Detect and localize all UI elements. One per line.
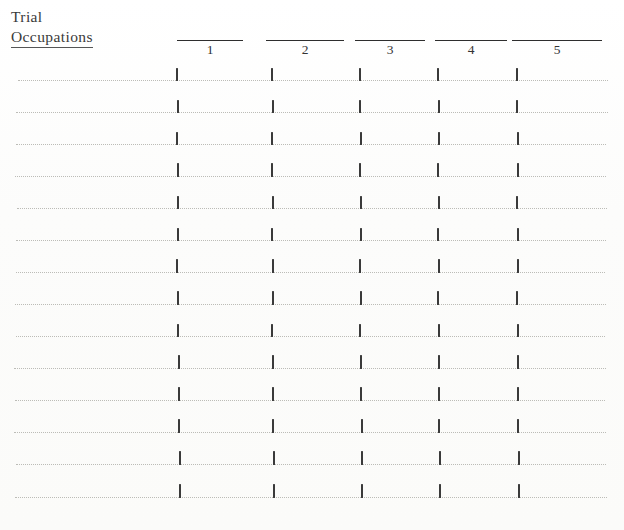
tick-mark-col-1[interactable] [179,484,181,498]
tick-mark-col-3[interactable] [361,451,363,465]
tick-mark-col-3[interactable] [361,419,363,433]
tick-mark-col-4[interactable] [438,196,440,209]
tick-mark-col-3[interactable] [359,324,361,337]
tick-mark-col-3[interactable] [360,132,362,145]
tick-mark-col-3[interactable] [359,163,361,177]
tick-mark-col-2[interactable] [272,259,274,273]
tick-mark-col-3[interactable] [360,291,362,305]
tick-mark-col-2[interactable] [272,100,274,113]
tick-mark-col-4[interactable] [439,484,441,498]
tick-mark-col-5[interactable] [517,355,519,369]
tick-mark-col-4[interactable] [438,100,440,113]
tick-mark-col-5[interactable] [516,196,518,209]
tick-mark-col-4[interactable] [438,419,440,433]
tick-mark-col-1[interactable] [177,291,179,305]
tick-mark-col-5[interactable] [517,163,519,177]
tick-mark-col-5[interactable] [517,324,519,337]
tick-mark-col-4[interactable] [438,132,440,145]
form-grid [0,0,624,530]
row-dotted-rule [17,208,607,209]
tick-mark-col-3[interactable] [360,196,362,209]
tick-mark-col-4[interactable] [438,324,440,337]
tick-mark-col-1[interactable] [176,68,178,81]
tick-mark-col-2[interactable] [271,228,273,241]
tick-mark-col-3[interactable] [361,484,363,498]
tick-mark-col-5[interactable] [516,100,518,113]
tick-mark-col-3[interactable] [360,387,362,401]
tick-mark-col-1[interactable] [178,419,180,433]
row-dotted-rule [18,80,608,81]
tick-mark-col-1[interactable] [178,387,180,401]
tick-mark-col-4[interactable] [437,68,439,81]
tick-mark-col-1[interactable] [176,259,178,273]
tick-mark-col-1[interactable] [177,163,179,177]
tick-mark-col-1[interactable] [177,228,179,241]
tick-mark-col-2[interactable] [273,484,275,498]
tick-mark-col-2[interactable] [273,451,275,465]
tick-mark-col-1[interactable] [178,355,180,369]
tick-mark-col-3[interactable] [359,100,361,113]
tick-mark-col-2[interactable] [272,387,274,401]
tick-mark-col-1[interactable] [179,451,181,465]
tick-mark-col-2[interactable] [271,68,273,81]
tick-mark-col-1[interactable] [177,100,179,113]
tick-mark-col-3[interactable] [360,228,362,241]
tick-mark-col-3[interactable] [360,355,362,369]
tick-mark-col-4[interactable] [437,291,439,305]
tick-mark-col-3[interactable] [359,68,361,81]
tick-mark-col-5[interactable] [516,291,518,305]
tick-mark-col-1[interactable] [177,196,179,209]
tick-mark-col-4[interactable] [437,163,439,177]
tick-mark-col-2[interactable] [272,419,274,433]
tick-mark-col-3[interactable] [359,259,361,273]
tick-mark-col-2[interactable] [271,163,273,177]
tick-mark-col-5[interactable] [517,259,519,273]
tick-mark-col-4[interactable] [438,355,440,369]
tick-mark-col-5[interactable] [518,484,520,498]
tick-mark-col-4[interactable] [438,387,440,401]
tick-mark-col-5[interactable] [518,451,520,465]
tick-mark-col-5[interactable] [516,68,518,81]
tick-mark-col-1[interactable] [177,324,179,337]
tick-mark-col-1[interactable] [176,132,178,145]
tick-mark-col-2[interactable] [271,132,273,145]
tick-mark-col-4[interactable] [439,451,441,465]
row-dotted-rule [16,112,608,113]
tick-mark-col-4[interactable] [438,259,440,273]
tick-mark-col-5[interactable] [517,419,519,433]
tick-mark-col-5[interactable] [517,387,519,401]
tick-mark-col-2[interactable] [271,324,273,337]
tick-mark-col-2[interactable] [272,196,274,209]
tick-mark-col-5[interactable] [517,132,519,145]
tick-mark-col-2[interactable] [272,355,274,369]
tick-mark-col-5[interactable] [517,228,519,241]
tick-mark-col-2[interactable] [272,291,274,305]
tick-mark-col-4[interactable] [437,228,439,241]
